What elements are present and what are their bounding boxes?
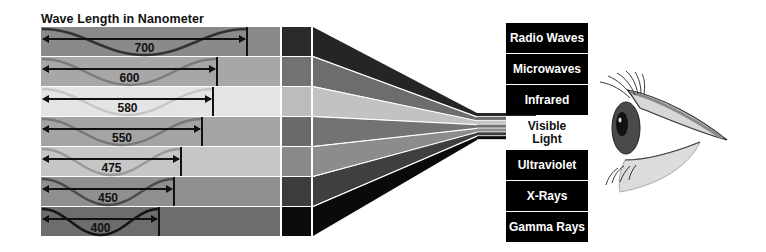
wavelength-value: 700 [134, 41, 154, 55]
wavelength-value: 550 [112, 131, 132, 145]
wavelength-value: 600 [119, 71, 139, 85]
wavelength-row: 600 [41, 57, 311, 86]
wavelength-value: 450 [98, 191, 118, 205]
label-radio-waves: Radio Waves [506, 23, 588, 53]
label-microwaves: Microwaves [506, 54, 588, 84]
wavelength-row: 400 [41, 207, 311, 236]
visible-light-text: VisibleLight [528, 120, 566, 146]
spectrum-diagram: 700600580550475450400 [0, 0, 766, 252]
convergence-fan [313, 27, 536, 236]
label-x-rays: X-Rays [506, 181, 588, 211]
wavelength-row: 700 [41, 27, 311, 56]
spectrum-label-column: Radio Waves Microwaves Infrared VisibleL… [506, 23, 588, 243]
wavelength-row: 450 [41, 177, 311, 206]
eye-icon [600, 71, 727, 192]
label-infrared: Infrared [506, 85, 588, 115]
wavelength-row: 580 [41, 87, 311, 116]
wavelength-value: 475 [101, 161, 121, 175]
wavelength-value: 580 [117, 101, 137, 115]
label-visible-light: VisibleLight [506, 116, 588, 149]
label-gamma-rays: Gamma Rays [506, 212, 588, 242]
wavelength-row: 475 [41, 147, 311, 176]
label-ultraviolet: Ultraviolet [506, 150, 588, 180]
wavelength-row: 550 [41, 117, 311, 146]
wavelength-value: 400 [90, 221, 110, 235]
wavelength-rows: 700600580550475450400 [41, 27, 312, 237]
